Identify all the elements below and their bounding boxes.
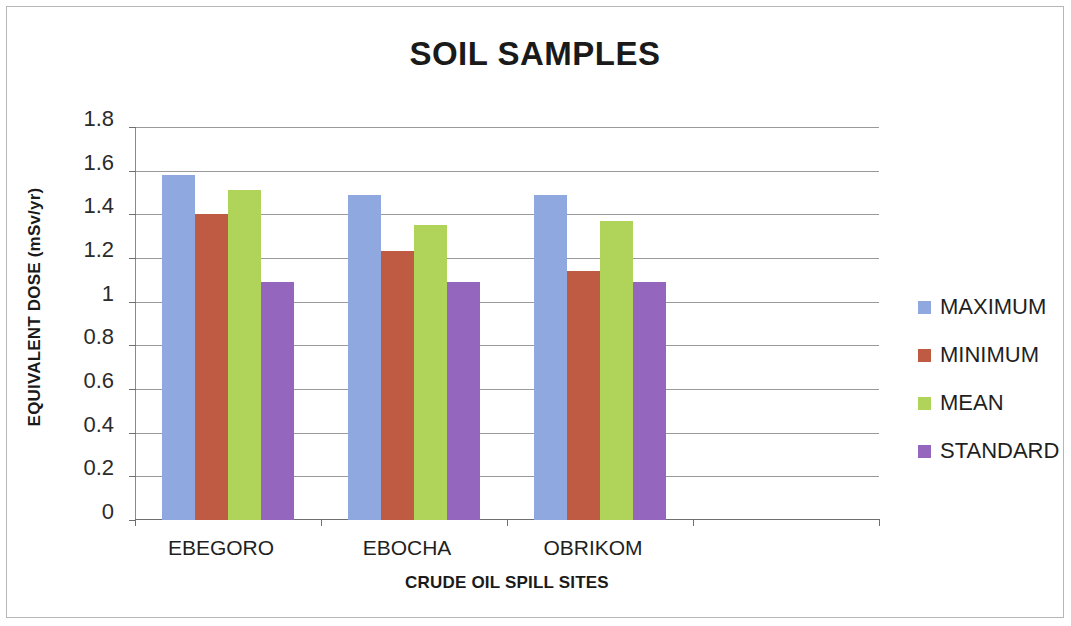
y-axis-tick <box>129 389 136 390</box>
y-axis-tick-label: 0.8 <box>10 324 114 350</box>
chart-legend: MAXIMUMMINIMUMMEANSTANDARD <box>918 283 1059 475</box>
legend-swatch-icon <box>918 397 931 410</box>
gridline <box>135 171 879 172</box>
legend-item-minimum[interactable]: MINIMUM <box>918 331 1059 379</box>
x-axis-tick <box>321 519 322 526</box>
y-axis-tick-label: 0.6 <box>10 368 114 394</box>
y-axis-tick-label: 0.4 <box>10 412 114 438</box>
legend-swatch-icon <box>918 445 931 458</box>
chart-frame: SOIL SAMPLES EQUIVALENT DOSE (mSv/yr) CR… <box>6 6 1064 618</box>
x-axis-category-label-ebocha: EBOCHA <box>314 536 500 560</box>
y-axis-tick-label: 1.6 <box>10 150 114 176</box>
y-axis-line <box>135 127 136 520</box>
chart-title: SOIL SAMPLES <box>7 35 1063 73</box>
bar-standard-ebocha[interactable] <box>447 282 480 520</box>
y-axis-tick <box>129 127 136 128</box>
x-axis-category-label-obrikom: OBRIKOM <box>500 536 686 560</box>
legend-label: MEAN <box>940 392 1004 414</box>
gridline <box>135 127 879 128</box>
legend-label: MAXIMUM <box>940 296 1046 318</box>
y-axis-tick-label: 0.2 <box>10 455 114 481</box>
bar-maximum-obrikom[interactable] <box>534 195 567 520</box>
x-axis-tick <box>879 519 880 526</box>
bar-standard-obrikom[interactable] <box>633 282 666 520</box>
y-axis-tick <box>129 302 136 303</box>
x-axis-tick <box>135 519 136 526</box>
y-axis-tick-label: 1.4 <box>10 193 114 219</box>
legend-swatch-icon <box>918 349 931 362</box>
bar-maximum-ebocha[interactable] <box>348 195 381 520</box>
y-axis-tick <box>129 171 136 172</box>
y-axis-tick <box>129 476 136 477</box>
x-axis-category-label-ebegoro: EBEGORO <box>128 536 314 560</box>
chart-screenshot: SOIL SAMPLES EQUIVALENT DOSE (mSv/yr) CR… <box>0 0 1071 626</box>
bar-minimum-obrikom[interactable] <box>567 271 600 520</box>
bar-minimum-ebocha[interactable] <box>381 251 414 520</box>
x-axis-tick <box>693 519 694 526</box>
plot-area <box>135 127 879 520</box>
y-axis-tick-label: 1.2 <box>10 237 114 263</box>
y-axis-tick <box>129 258 136 259</box>
legend-swatch-icon <box>918 301 931 314</box>
y-axis-tick-label: 1 <box>10 281 114 307</box>
y-axis-tick-label: 1.8 <box>10 106 114 132</box>
legend-label: STANDARD <box>940 440 1059 462</box>
bar-mean-ebegoro[interactable] <box>228 190 261 520</box>
y-axis-tick <box>129 345 136 346</box>
legend-item-standard[interactable]: STANDARD <box>918 427 1059 475</box>
x-axis-tick <box>507 519 508 526</box>
x-axis-title: CRUDE OIL SPILL SITES <box>135 573 879 593</box>
y-axis-tick-label: 0 <box>10 499 114 525</box>
bar-mean-ebocha[interactable] <box>414 225 447 520</box>
legend-item-mean[interactable]: MEAN <box>918 379 1059 427</box>
bar-standard-ebegoro[interactable] <box>261 282 294 520</box>
legend-item-maximum[interactable]: MAXIMUM <box>918 283 1059 331</box>
bar-mean-obrikom[interactable] <box>600 221 633 520</box>
bar-minimum-ebegoro[interactable] <box>195 214 228 520</box>
bar-maximum-ebegoro[interactable] <box>162 175 195 520</box>
y-axis-tick <box>129 433 136 434</box>
y-axis-tick <box>129 214 136 215</box>
legend-label: MINIMUM <box>940 344 1039 366</box>
